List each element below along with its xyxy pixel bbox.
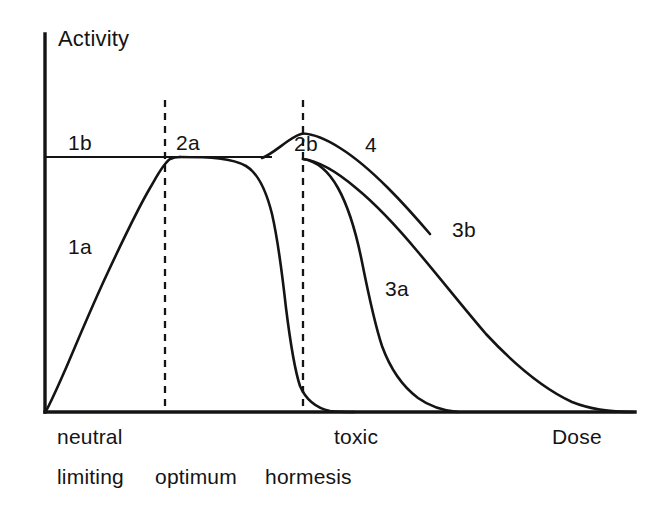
x-axis-label: Dose bbox=[552, 426, 602, 447]
dose-response-figure: Activity 1b 2a 2b 4 1a 3b 3a neutral tox… bbox=[0, 0, 664, 520]
curve-1a bbox=[46, 157, 180, 411]
curve-label-1b: 1b bbox=[68, 132, 92, 153]
zone-label-neutral: neutral bbox=[57, 426, 123, 447]
zone-label-limiting: limiting bbox=[57, 466, 124, 487]
curve-label-2b: 2b bbox=[294, 133, 318, 154]
curve-label-3b: 3b bbox=[452, 219, 476, 240]
zone-label-optimum: optimum bbox=[155, 466, 237, 487]
curve-3a bbox=[303, 159, 458, 412]
curve-label-4: 4 bbox=[365, 134, 377, 155]
curve-2a bbox=[180, 157, 354, 412]
curve-label-3a: 3a bbox=[385, 278, 409, 299]
curve-label-2a: 2a bbox=[176, 132, 200, 153]
curve-3b bbox=[303, 159, 633, 412]
y-axis-label: Activity bbox=[58, 28, 129, 50]
zone-label-hormesis: hormesis bbox=[265, 466, 352, 487]
zone-label-toxic: toxic bbox=[334, 426, 378, 447]
curve-label-1a: 1a bbox=[68, 236, 92, 257]
